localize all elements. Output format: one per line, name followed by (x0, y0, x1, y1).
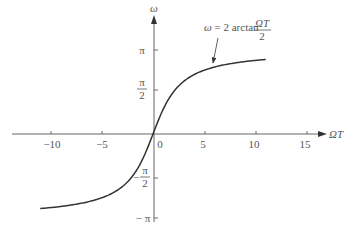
x-axis-label: ΩT (329, 128, 344, 140)
y-tick-label-neg-pi: − π (136, 212, 151, 224)
x-tick-label: −10 (43, 138, 61, 150)
annotation-formula: ω = 2 arctan (204, 21, 259, 33)
y-tick-label-pi: π (139, 44, 145, 56)
annotation-frac-den: 2 (259, 30, 265, 42)
y-axis-arrow-icon (151, 15, 157, 24)
annotation-frac-num: ΩT (255, 17, 270, 29)
x-tick-label: 15 (300, 138, 312, 150)
x-tick-label: 5 (200, 138, 206, 150)
chart: −10 −5 0 5 10 15 π π 2 − π 2 − π ω ΩT ω … (0, 0, 351, 232)
x-tick-label: 0 (157, 138, 163, 150)
x-tick-label: −5 (96, 138, 108, 150)
y-tick-label-pi-half-num: π (139, 76, 145, 88)
y-tick-label-neg-sign: − (133, 171, 139, 183)
y-tick-label-neg-pi-half-den: 2 (142, 177, 148, 189)
annotation-arrow (213, 38, 218, 63)
y-axis-label: ω (150, 2, 158, 14)
y-tick-label-pi-half-den: 2 (139, 89, 145, 101)
y-tick-label-neg-pi-half-num: π (142, 164, 148, 176)
x-tick-label: 10 (249, 138, 261, 150)
x-axis-arrow-icon (318, 131, 327, 137)
